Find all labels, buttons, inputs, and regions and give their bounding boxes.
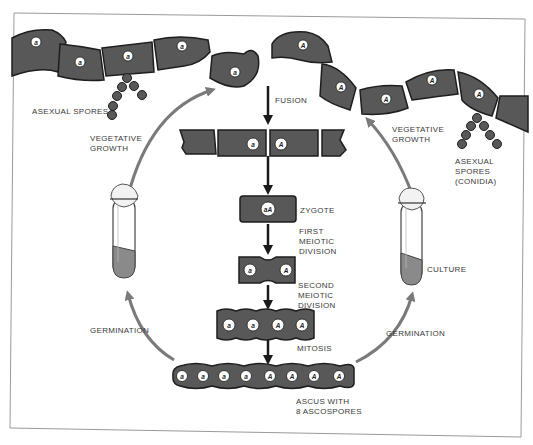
svg-text:A: A	[289, 373, 295, 380]
svg-text:a: a	[251, 322, 255, 329]
ascus-label: ASCUS WITH 8 ASCOSPORES	[296, 397, 362, 417]
second-meiotic-label: SECOND MEIOTIC DIVISION	[298, 281, 336, 311]
fusion-label: FUSION	[275, 96, 307, 106]
svg-text:A: A	[476, 91, 482, 98]
svg-text:A: A	[283, 267, 289, 274]
test-tube-right	[398, 188, 426, 285]
svg-text:a: a	[233, 69, 237, 76]
svg-text:a: a	[244, 373, 248, 380]
svg-text:A: A	[429, 77, 435, 84]
left-hypha-a	[12, 30, 259, 87]
germination-right-label: GERMINATION	[386, 329, 445, 339]
svg-text:a: a	[248, 267, 252, 274]
svg-text:a: a	[126, 53, 130, 60]
neurospora-life-cycle-diagram: a a a a a A A A A A	[0, 0, 533, 445]
vegetative-growth-right-label: VEGETATIVE GROWTH	[392, 125, 444, 145]
asexual-spores-right	[458, 114, 502, 149]
svg-text:a: a	[180, 43, 184, 50]
svg-text:A: A	[300, 42, 306, 49]
asexual-spores-left-label: ASEXUAL SPORES	[32, 107, 108, 117]
svg-text:A: A	[336, 373, 342, 380]
svg-text:A: A	[338, 84, 344, 91]
svg-text:a: a	[78, 59, 82, 66]
svg-text:a: a	[34, 39, 38, 46]
first-meiotic-label: FIRST MEIOTIC DIVISION	[299, 227, 337, 257]
svg-text:A: A	[299, 322, 305, 329]
svg-text:A: A	[275, 322, 281, 329]
vegetative-growth-left-label: VEGETATIVE GROWTH	[90, 134, 142, 154]
svg-text:A: A	[383, 96, 389, 103]
germination-left-label: GERMINATION	[90, 326, 149, 336]
right-hypha-A	[272, 32, 528, 132]
svg-text:A: A	[311, 373, 317, 380]
diagram-canvas: a a a a a A A A A A	[0, 0, 533, 445]
svg-text:a: a	[227, 322, 231, 329]
svg-text:a: a	[251, 141, 255, 148]
svg-text:A: A	[278, 141, 284, 148]
fusion-row	[180, 130, 346, 156]
asexual-spores-right-label: ASEXUAL SPORES (CONIDIA)	[455, 157, 496, 187]
asexual-spores-left	[108, 74, 147, 120]
svg-text:a: a	[201, 373, 205, 380]
culture-label: CULTURE	[427, 265, 466, 275]
zygote-label: ZYGOTE	[300, 206, 335, 216]
svg-text:a: a	[222, 373, 226, 380]
svg-text:aA: aA	[264, 206, 273, 213]
svg-text:A: A	[267, 373, 273, 380]
svg-text:a: a	[180, 373, 184, 380]
mitosis-label: MITOSIS	[297, 344, 332, 354]
test-tube-left	[110, 184, 138, 278]
